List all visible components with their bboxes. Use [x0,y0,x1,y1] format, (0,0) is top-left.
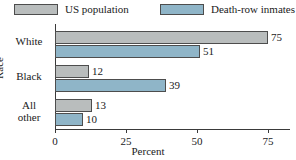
bar-all-other-us-population [55,99,92,112]
bar-value-black-us-population: 12 [92,65,103,78]
x-axis-title: Percent [0,145,296,157]
bar-white-us-population [55,31,268,44]
x-tick-0 [55,129,56,133]
bar-chart: US population Death-row inmates White Bl… [0,0,296,160]
legend-label-us-population: US population [65,3,129,15]
legend-label-death-row-inmates: Death-row inmates [211,3,295,15]
plot-area: 0 25 50 75 75 51 12 39 13 10 [55,24,290,129]
bar-all-other-death-row-inmates [55,113,83,126]
bar-value-white-us-population: 75 [271,31,282,44]
bar-white-death-row-inmates [55,45,200,58]
legend-swatch-us-population [14,4,58,15]
bar-black-us-population [55,65,89,78]
bar-value-all-other-us-population: 13 [95,99,106,112]
bar-value-black-death-row-inmates: 39 [169,79,180,92]
x-tick-50 [197,129,198,133]
y-axis-title: Race [0,57,5,79]
legend-item-us-population: US population [14,2,129,16]
y-category-label-all-other: All other [6,99,52,123]
chart-legend: US population Death-row inmates [0,0,296,20]
bar-black-death-row-inmates [55,79,166,92]
bar-value-all-other-death-row-inmates: 10 [86,113,97,126]
x-axis-line [55,129,290,130]
x-tick-25 [126,129,127,133]
x-tick-75 [268,129,269,133]
bar-value-white-death-row-inmates: 51 [203,45,214,58]
legend-swatch-death-row-inmates [160,4,204,15]
y-category-label-white: White [6,35,52,47]
y-category-label-black: Black [6,70,52,82]
legend-item-death-row-inmates: Death-row inmates [160,2,295,16]
